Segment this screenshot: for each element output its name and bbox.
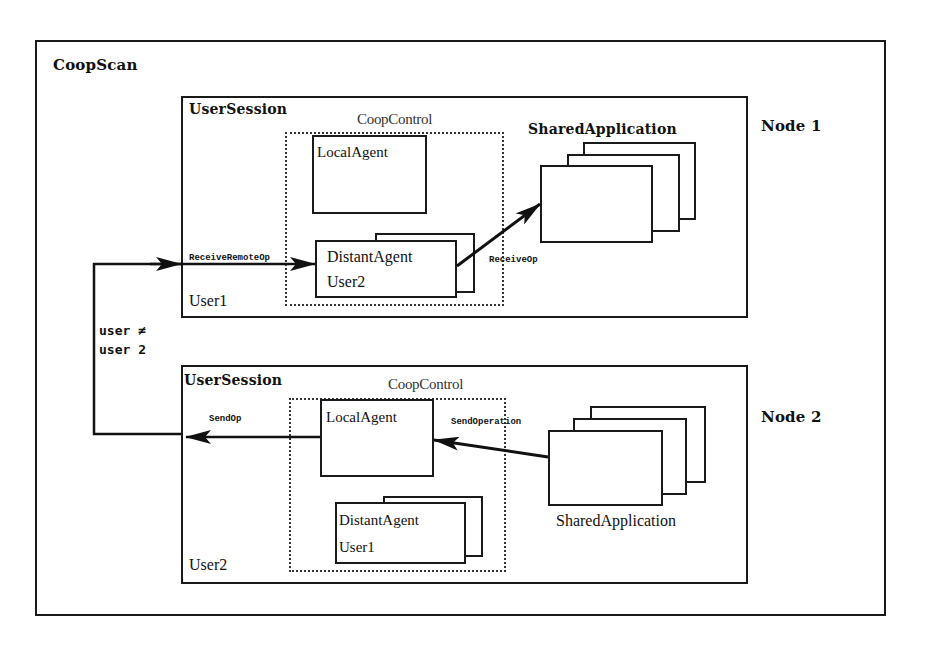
local-agent-label: LocalAgent xyxy=(326,409,397,426)
distant-agent-user: User2 xyxy=(327,273,365,291)
edge-label-send-op: SendOp xyxy=(209,414,241,424)
edge-label-receive-remote-op: ReceiveRemoteOp xyxy=(189,253,270,263)
shared-application-label-node-1: SharedApplication xyxy=(528,121,677,137)
user-session-label-node-1: UserSession xyxy=(189,101,287,117)
coopscan-title: CoopScan xyxy=(53,56,138,74)
distant-agent-node-1[interactable]: DistantAgent User2 xyxy=(315,240,457,298)
edge-label-receive-op: ReceiveOp xyxy=(489,255,538,265)
distant-agent-label: DistantAgent xyxy=(327,248,412,266)
coop-control-label-node-2: CoopControl xyxy=(388,376,463,393)
condition-label: user ≠ user 2 xyxy=(99,321,146,359)
node-2-label: Node 2 xyxy=(761,408,822,426)
distant-agent-node-2[interactable]: DistantAgent User1 xyxy=(335,502,466,564)
distant-agent-user: User1 xyxy=(339,539,375,556)
user-label-node-2: User2 xyxy=(189,556,227,574)
shared-application-node-2[interactable] xyxy=(548,430,663,506)
node-1-label: Node 1 xyxy=(761,117,822,135)
shared-application-label-node-2: SharedApplication xyxy=(556,512,676,530)
condition-line-1: user ≠ xyxy=(99,321,146,340)
user-label-node-1: User1 xyxy=(189,292,227,310)
edge-label-send-operation: SendOperation xyxy=(451,417,521,427)
shared-application-node-1[interactable] xyxy=(540,165,653,243)
condition-line-2: user 2 xyxy=(99,340,146,359)
user-session-label-node-2: UserSession xyxy=(184,372,282,388)
local-agent-node-2[interactable]: LocalAgent xyxy=(320,399,434,477)
distant-agent-label: DistantAgent xyxy=(339,512,419,529)
local-agent-label: LocalAgent xyxy=(317,144,388,161)
coop-control-label-node-1: CoopControl xyxy=(357,111,432,128)
local-agent-node-1[interactable]: LocalAgent xyxy=(312,135,427,214)
